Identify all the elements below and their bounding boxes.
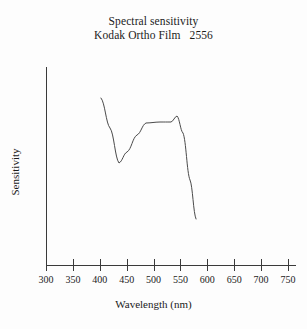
spectral-sensitivity-curve [101,98,196,219]
x-axis-tick-label: 650 [227,274,242,285]
plot-area: 300350400450500550600650700750 [0,0,307,329]
x-axis-tick-label: 700 [254,274,269,285]
x-axis-tick-label: 550 [173,274,188,285]
x-axis-tick-label: 500 [146,274,161,285]
x-axis-tick-label: 400 [92,274,107,285]
y-axis-title: Sensitivity [9,132,21,212]
x-axis-tick-label: 300 [39,274,54,285]
chart-figure: Spectral sensitivity Kodak Ortho Film 25… [0,0,307,329]
x-axis-tick-label: 450 [119,274,134,285]
x-axis-tick-label: 600 [200,274,215,285]
x-axis-tick-labels: 300350400450500550600650700750 [39,274,296,285]
x-axis-tick-label: 750 [281,274,296,285]
x-axis-tick-label: 350 [65,274,80,285]
x-axis-title: Wavelength (nm) [0,298,307,310]
